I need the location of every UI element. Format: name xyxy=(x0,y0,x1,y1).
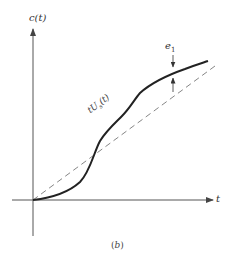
response-curve xyxy=(33,61,208,200)
figure-caption: (b) xyxy=(111,240,124,250)
response-diagram xyxy=(0,0,231,256)
y-axis-label: c(t) xyxy=(29,13,46,23)
error-label-sub: 1 xyxy=(171,46,175,54)
error-label: e1 xyxy=(165,41,175,54)
x-axis-label: t xyxy=(216,194,220,204)
ramp-input-line xyxy=(33,66,215,200)
caption-close: ) xyxy=(120,240,124,250)
